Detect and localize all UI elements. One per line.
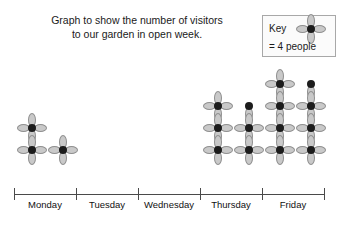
pictogram-stack-friday-1 — [296, 73, 326, 161]
pictogram-stack-thursday-0 — [203, 95, 233, 161]
pictogram-stack-thursday-1 — [234, 95, 264, 161]
pictogram-cell — [17, 139, 47, 161]
x-axis-label-monday: Monday — [14, 199, 76, 210]
x-axis-label-wednesday: Wednesday — [138, 199, 200, 210]
x-axis-label-friday: Friday — [262, 199, 324, 210]
x-axis-label-tuesday: Tuesday — [76, 199, 138, 210]
x-axis-label-thursday: Thursday — [200, 199, 262, 210]
pictogram-cell — [296, 139, 326, 161]
plot-area — [0, 0, 350, 194]
pictogram-stack-monday-1 — [48, 139, 78, 161]
pictogram-cell — [265, 139, 295, 161]
x-axis-tick-5 — [324, 188, 325, 200]
pictogram-stack-friday-0 — [265, 73, 295, 161]
pictogram-cell — [234, 139, 264, 161]
pictogram-cell — [203, 139, 233, 161]
x-axis-line — [14, 194, 324, 195]
pictogram-chart: Graph to show the number of visitors to … — [0, 0, 350, 225]
pictogram-stack-monday-0 — [17, 117, 47, 161]
pictogram-cell — [48, 139, 78, 161]
